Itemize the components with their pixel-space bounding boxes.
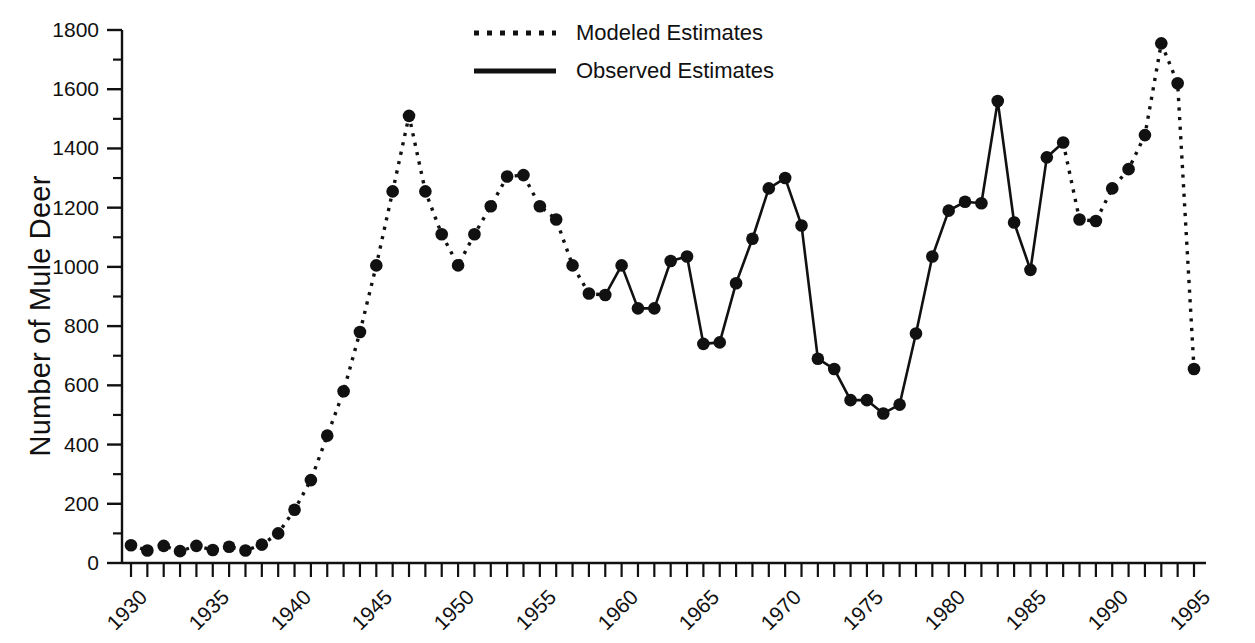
data-point-marker	[583, 287, 596, 300]
data-point-marker	[697, 338, 710, 351]
data-point-marker	[795, 219, 808, 232]
data-point-marker	[1106, 182, 1119, 195]
data-point-marker	[844, 394, 857, 407]
legend-label-observed: Observed Estimates	[576, 58, 774, 84]
y-tick-label: 1200	[29, 196, 99, 220]
legend-item-modeled: Modeled Estimates	[472, 14, 832, 52]
chart-legend: Modeled Estimates Observed Estimates	[472, 14, 832, 90]
data-point-marker	[386, 185, 399, 198]
data-point-marker	[125, 539, 138, 552]
data-point-marker	[681, 250, 694, 263]
data-point-marker	[1188, 363, 1201, 376]
data-point-marker	[272, 527, 285, 540]
data-point-marker	[419, 185, 432, 198]
data-point-marker	[321, 429, 334, 442]
chart-plot-area	[0, 0, 1255, 643]
y-tick-label: 0	[29, 551, 99, 575]
y-tick-label: 1000	[29, 255, 99, 279]
data-point-marker	[337, 385, 350, 398]
data-point-marker	[746, 232, 759, 245]
data-point-marker	[926, 250, 939, 263]
data-point-marker	[632, 302, 645, 315]
y-tick-label: 400	[29, 433, 99, 457]
data-point-marker	[730, 277, 743, 290]
data-point-marker	[828, 363, 841, 376]
data-point-marker	[206, 544, 219, 557]
data-point-marker	[877, 407, 890, 420]
data-point-marker	[1139, 129, 1152, 142]
data-point-marker	[174, 545, 187, 558]
y-tick-label: 1400	[29, 136, 99, 160]
data-point-marker	[370, 259, 383, 272]
legend-item-observed: Observed Estimates	[472, 52, 832, 90]
data-point-marker	[664, 255, 677, 268]
series-line-modeled-estimates	[131, 116, 605, 551]
legend-label-modeled: Modeled Estimates	[576, 20, 763, 46]
data-point-marker	[223, 540, 236, 553]
data-point-marker	[484, 200, 497, 213]
data-point-marker	[1008, 216, 1021, 229]
data-point-marker	[975, 197, 988, 210]
chart-figure: 020040060080010001200140016001800 193019…	[0, 0, 1255, 643]
data-point-marker	[305, 474, 318, 487]
data-point-marker	[812, 352, 825, 365]
data-point-marker	[779, 172, 792, 185]
data-point-marker	[501, 170, 514, 183]
data-point-marker	[256, 538, 269, 551]
data-point-marker	[1073, 213, 1086, 226]
data-point-marker	[991, 95, 1004, 108]
data-point-marker	[1171, 77, 1184, 90]
data-point-marker	[910, 327, 923, 340]
data-point-marker	[157, 540, 170, 553]
data-point-marker	[452, 259, 465, 272]
data-point-marker	[517, 169, 530, 182]
data-point-marker	[239, 544, 252, 557]
data-point-marker	[403, 110, 416, 123]
series-layer	[131, 43, 1194, 551]
data-point-marker	[713, 336, 726, 349]
data-point-marker	[893, 398, 906, 411]
y-tick-label: 600	[29, 373, 99, 397]
data-point-marker	[1057, 136, 1070, 149]
data-point-marker	[468, 228, 481, 241]
data-point-marker	[959, 195, 972, 208]
y-tick-label: 1600	[29, 77, 99, 101]
data-point-marker	[1090, 215, 1103, 228]
data-point-marker	[763, 182, 776, 195]
dotted-line-swatch	[472, 26, 558, 40]
data-point-marker	[1122, 163, 1135, 176]
y-tick-label: 1800	[29, 18, 99, 42]
series-line-modeled-estimates	[1063, 43, 1194, 369]
data-point-marker	[648, 302, 661, 315]
data-point-marker	[1024, 264, 1037, 277]
data-point-markers	[125, 37, 1201, 557]
data-point-marker	[550, 213, 563, 226]
y-tick-label: 800	[29, 314, 99, 338]
y-tick-label: 200	[29, 492, 99, 516]
data-point-marker	[1155, 37, 1168, 50]
data-point-marker	[1041, 151, 1054, 164]
data-point-marker	[190, 540, 203, 553]
solid-line-swatch	[472, 64, 558, 78]
data-point-marker	[354, 326, 367, 339]
data-point-marker	[141, 544, 154, 557]
data-point-marker	[435, 228, 448, 241]
data-point-marker	[942, 204, 955, 217]
data-point-marker	[534, 200, 547, 213]
data-point-marker	[288, 503, 301, 516]
data-point-marker	[615, 259, 628, 272]
data-point-marker	[599, 289, 612, 302]
data-point-marker	[861, 394, 874, 407]
data-point-marker	[566, 259, 579, 272]
